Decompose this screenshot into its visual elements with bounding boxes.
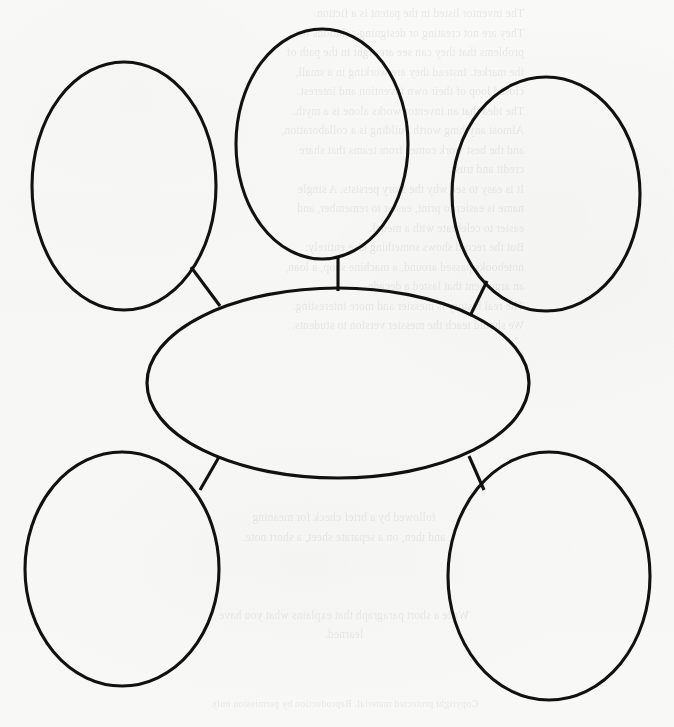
connector-top-right (470, 281, 487, 316)
center-node-group (147, 288, 529, 478)
outer-oval-top-center[interactable] (236, 29, 408, 259)
connector-top-left (191, 267, 220, 306)
outer-oval-top-right[interactable] (452, 77, 640, 311)
outer-oval-top-left[interactable] (32, 62, 216, 310)
outer-oval-bottom-left[interactable] (25, 452, 219, 686)
connector-group (191, 258, 487, 490)
center-oval[interactable] (147, 288, 529, 478)
outer-oval-bottom-right[interactable] (448, 452, 650, 700)
concept-map-diagram (0, 0, 674, 727)
connector-bottom-left (200, 457, 219, 490)
outer-node-group (25, 29, 650, 700)
worksheet-page: The inventor listed in the patent is a f… (0, 0, 674, 727)
